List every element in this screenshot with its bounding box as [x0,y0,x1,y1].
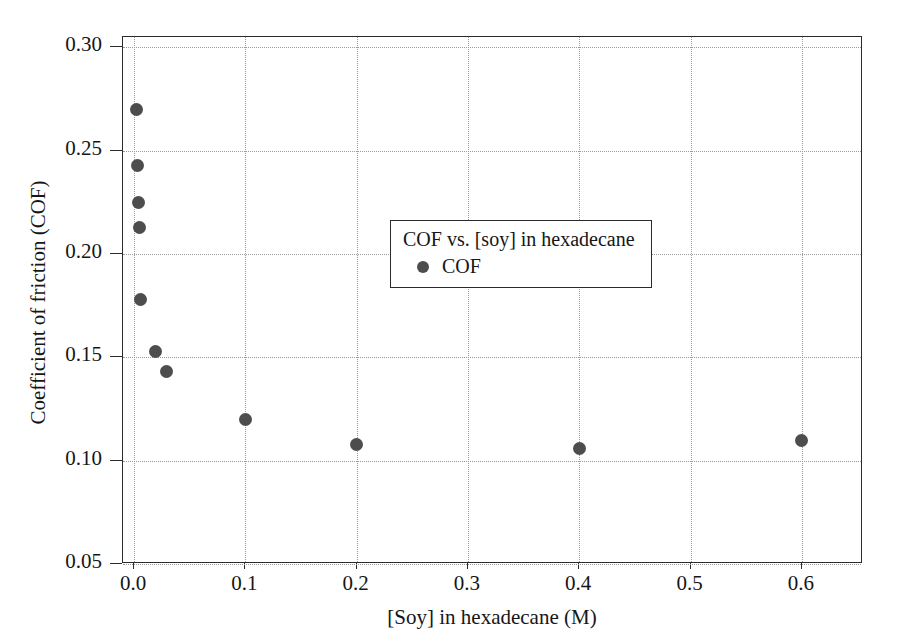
y-axis-tick [110,563,122,564]
x-axis-tick-label: 0.4 [538,571,618,596]
x-axis-tick-label: 0.2 [316,571,396,596]
data-point [239,413,252,426]
legend-title: COF vs. [soy] in hexadecane [403,227,639,252]
gridline-vertical [357,37,358,562]
data-point [149,345,162,358]
scatter-chart-figure: Coefficient of friction (COF) [Soy] in h… [0,0,909,642]
y-axis-tick [110,253,122,254]
x-axis-tick-label: 0.0 [93,571,173,596]
gridline-vertical [579,37,580,562]
gridline-horizontal [123,357,861,358]
gridline-vertical [691,37,692,562]
gridline-horizontal [123,151,861,152]
gridline-vertical [245,37,246,562]
legend: COF vs. [soy] in hexadecane COF [390,220,652,288]
y-axis-tick-label: 0.10 [0,446,102,471]
data-point [160,365,173,378]
legend-entry: COF [403,255,639,278]
gridline-vertical [468,37,469,562]
y-axis-tick [110,46,122,47]
y-axis-tick-label: 0.15 [0,342,102,367]
data-point [133,221,146,234]
x-axis-tick-label: 0.5 [650,571,730,596]
y-axis-tick-label: 0.25 [0,136,102,161]
x-axis-tick-label: 0.1 [204,571,284,596]
legend-entry-label: COF [442,255,481,278]
y-axis-tick [110,460,122,461]
y-axis-tick-label: 0.05 [0,549,102,574]
data-point [573,442,586,455]
x-axis-label: [Soy] in hexadecane (M) [122,605,862,630]
plot-area [122,36,862,563]
gridline-horizontal [123,564,861,565]
gridline-vertical [802,37,803,562]
gridline-horizontal [123,461,861,462]
legend-marker-icon [417,261,429,273]
data-point [132,196,145,209]
y-axis-tick [110,356,122,357]
data-point [130,103,143,116]
data-point [134,293,147,306]
y-axis-tick-label: 0.20 [0,239,102,264]
data-point [350,438,363,451]
x-axis-tick-label: 0.3 [427,571,507,596]
data-point [131,159,144,172]
y-axis-tick [110,150,122,151]
x-axis-tick-label: 0.6 [761,571,841,596]
legend-entries: COF [403,255,639,278]
y-axis-tick-label: 0.30 [0,32,102,57]
data-point [795,434,808,447]
gridline-horizontal [123,47,861,48]
y-axis-label: Coefficient of friction (COF) [26,39,51,566]
